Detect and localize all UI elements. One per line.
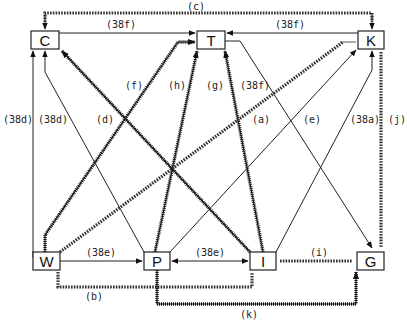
label-b: (b) [85, 291, 103, 302]
node-i-label: I [261, 253, 265, 270]
node-c[interactable]: C [31, 31, 59, 49]
label-38d-outer: (38d) [3, 114, 33, 125]
edge-f-w-t [45, 42, 195, 252]
edge-b-w-i [58, 272, 252, 287]
label-g: (g) [206, 80, 224, 91]
label-38a: (38a) [350, 114, 380, 125]
node-g-label: G [365, 253, 377, 270]
label-38e-p-i: (38e) [195, 247, 225, 258]
edge-38f-t-g [225, 41, 372, 248]
node-p-label: P [152, 253, 162, 270]
label-j: (j) [388, 114, 406, 125]
flow-diagram: C T K W P I G (c) (38f) (38f) (38d) (38d… [0, 0, 407, 324]
label-a: (a) [252, 114, 270, 125]
label-c: (c) [187, 1, 205, 12]
label-38f-mid: (38f) [240, 80, 270, 91]
node-i[interactable]: I [250, 252, 276, 270]
node-c-label: C [40, 32, 51, 49]
label-k: (k) [240, 309, 258, 320]
edge-c [45, 13, 372, 29]
label-38f-k-t: (38f) [275, 19, 305, 30]
edge-a-w-k [60, 42, 356, 252]
node-k[interactable]: K [358, 31, 384, 49]
label-38f-c-t: (38f) [106, 19, 136, 30]
node-p[interactable]: P [144, 252, 170, 270]
node-w-label: W [39, 253, 54, 270]
label-i: (i) [310, 247, 328, 258]
node-t[interactable]: T [197, 31, 225, 49]
label-38d-inner: (38d) [38, 114, 68, 125]
label-d: (d) [96, 114, 114, 125]
node-t-label: T [206, 32, 215, 49]
node-w[interactable]: W [33, 252, 60, 270]
node-k-label: K [366, 32, 376, 49]
label-f: (f) [125, 80, 143, 91]
label-38e-w-p: (38e) [86, 247, 116, 258]
node-g[interactable]: G [357, 252, 384, 270]
label-e: (e) [303, 114, 321, 125]
label-h: (h) [168, 80, 186, 91]
